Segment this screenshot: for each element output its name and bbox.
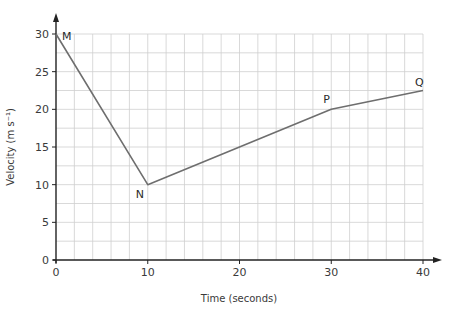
y-tick-label: 20 bbox=[35, 103, 49, 116]
x-tick-label: 20 bbox=[233, 266, 247, 279]
x-axis-arrow-icon bbox=[433, 257, 442, 263]
x-tick-label: 30 bbox=[324, 266, 338, 279]
point-label-m: M bbox=[62, 30, 72, 43]
x-tick-label: 40 bbox=[416, 266, 430, 279]
y-tick-label: 25 bbox=[35, 66, 49, 79]
x-tick-label: 10 bbox=[141, 266, 155, 279]
y-tick-label: 5 bbox=[42, 216, 49, 229]
y-axis-arrow-icon bbox=[53, 13, 59, 22]
velocity-time-chart: 010203040051015202530 MNPQ Time (seconds… bbox=[0, 0, 454, 315]
point-label-p: P bbox=[323, 93, 330, 106]
x-axis-title: Time (seconds) bbox=[200, 293, 277, 304]
x-tick-label: 0 bbox=[53, 266, 60, 279]
y-axis-title: Velocity (m s⁻¹) bbox=[5, 108, 16, 186]
y-tick-label: 10 bbox=[35, 179, 49, 192]
y-tick-label: 30 bbox=[35, 28, 49, 41]
point-label-n: N bbox=[136, 188, 144, 201]
y-tick-label: 15 bbox=[35, 141, 49, 154]
point-labels: MNPQ bbox=[62, 30, 424, 201]
point-label-q: Q bbox=[415, 76, 424, 89]
y-tick-label: 0 bbox=[42, 254, 49, 267]
